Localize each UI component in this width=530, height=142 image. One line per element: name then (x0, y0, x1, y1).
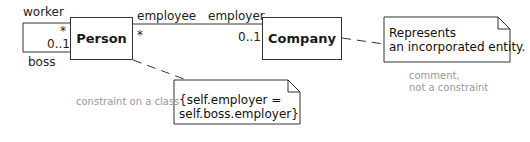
role-worker: worker (23, 5, 64, 19)
constraint-note-line1: {self.employer = (179, 93, 299, 107)
class-company-name: Company (268, 31, 336, 46)
role-employer: employer (208, 9, 265, 23)
constraint-note-line2: self.boss.employer} (179, 107, 299, 121)
multiplicity-worker: * (60, 24, 66, 38)
multiplicity-employee: * (137, 28, 143, 42)
constraint-note: {self.employer = self.boss.employer} (179, 93, 299, 121)
comment-label-line1: comment, (409, 70, 488, 82)
constraint-label: constraint on a class (76, 96, 179, 108)
multiplicity-employer: 0..1 (238, 30, 261, 44)
role-employee: employee (137, 9, 196, 23)
class-company[interactable]: Company (262, 17, 342, 60)
class-person[interactable]: Person (70, 17, 133, 60)
comment-label-line2: not a constraint (409, 82, 488, 94)
comment-note-line2: an incorporated entity. (389, 40, 525, 54)
role-boss: boss (28, 55, 55, 69)
comment-note-line1: Represents (389, 26, 525, 40)
multiplicity-boss: 0..1 (47, 37, 70, 51)
comment-label: comment, not a constraint (409, 70, 488, 94)
class-person-name: Person (76, 31, 127, 46)
comment-note: Represents an incorporated entity. (389, 26, 525, 54)
